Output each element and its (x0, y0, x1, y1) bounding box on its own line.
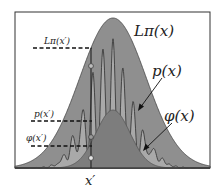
label-target-curve: p(x) (152, 62, 182, 80)
rejection-sampling-diagram: Lπ(x) p(x) φ(x) Lπ(x′) p(x′) φ(x′) x′ (0, 0, 221, 196)
label-envelope-curve: Lπ(x) (133, 22, 174, 40)
label-envelope-at-xprime: Lπ(x′) (43, 36, 71, 46)
label-proposal-at-xprime: φ(x′) (26, 133, 47, 143)
sample-circle-lower (89, 156, 94, 161)
label-xprime: x′ (85, 173, 95, 188)
label-proposal-curve: φ(x) (164, 107, 195, 125)
label-target-at-xprime: p(x′) (34, 109, 54, 119)
sample-circle-upper (89, 64, 94, 69)
sample-circle-middle (89, 135, 94, 140)
